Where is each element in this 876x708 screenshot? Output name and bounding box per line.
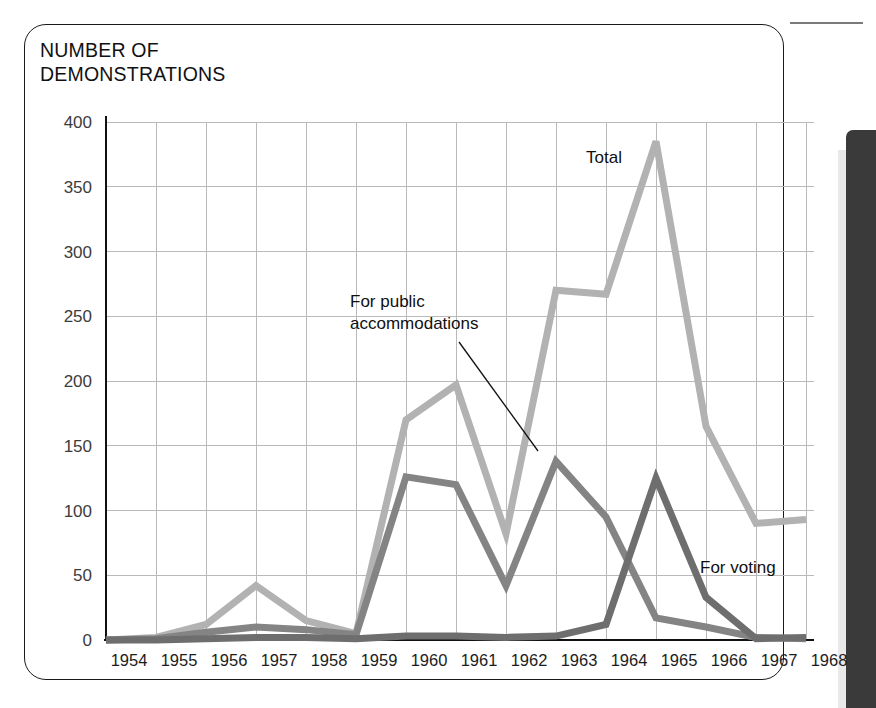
annotation-public-accommodations: For publicaccommodations (350, 292, 479, 333)
series-annotations: TotalFor publicaccommodationsFor voting (350, 148, 776, 577)
x-tick-label: 1959 (361, 651, 398, 669)
y-tick-label: 250 (64, 307, 92, 326)
y-tick-label: 150 (64, 437, 92, 456)
y-tick-label: 350 (64, 178, 92, 197)
y-tick-label: 400 (64, 113, 92, 132)
x-tick-label: 1961 (461, 651, 498, 669)
x-tick-label: 1964 (611, 651, 648, 669)
x-tick-label: 1962 (511, 651, 548, 669)
annotation-total: Total (586, 148, 622, 167)
x-axis-tick-labels: 1954195519561957195819591960196119621963… (111, 651, 848, 669)
x-tick-label: 1956 (211, 651, 248, 669)
x-tick-label: 1963 (561, 651, 598, 669)
x-tick-label: 1968 (811, 651, 848, 669)
y-axis-tick-labels: 050100150200250300350400 (64, 113, 92, 650)
x-tick-label: 1957 (261, 651, 298, 669)
x-tick-label: 1965 (661, 651, 698, 669)
x-tick-label: 1954 (111, 651, 148, 669)
y-tick-label: 100 (64, 502, 92, 521)
y-tick-label: 300 (64, 243, 92, 262)
x-tick-label: 1966 (711, 651, 748, 669)
x-tick-label: 1960 (411, 651, 448, 669)
x-tick-label: 1967 (761, 651, 798, 669)
y-tick-label: 50 (73, 566, 92, 585)
x-tick-label: 1958 (311, 651, 348, 669)
y-tick-label: 200 (64, 372, 92, 391)
y-tick-label: 0 (83, 631, 92, 650)
annotation-for-voting: For voting (700, 558, 776, 577)
x-tick-label: 1955 (161, 651, 198, 669)
